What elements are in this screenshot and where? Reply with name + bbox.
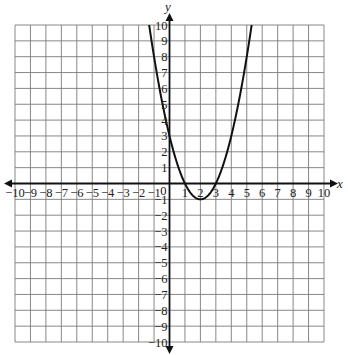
y-tick-label: −4: [154, 240, 168, 254]
x-tick-label: −10: [5, 186, 25, 200]
y-tick-label: −8: [154, 304, 167, 318]
y-tick-label: 2: [161, 145, 167, 159]
y-tick-label: −2: [154, 209, 167, 223]
y-tick-label: 8: [161, 50, 167, 64]
x-tick-label: −7: [55, 186, 68, 200]
x-tick-label: 4: [228, 186, 235, 200]
x-tick-label: −3: [116, 186, 129, 200]
y-tick-label: 4: [161, 114, 168, 128]
y-tick-label: −9: [154, 320, 167, 334]
x-tick-label: 1: [182, 186, 188, 200]
x-tick-label: 3: [213, 186, 219, 200]
x-tick-label: 5: [244, 186, 250, 200]
x-tick-label: −5: [86, 186, 99, 200]
x-tick-label: −8: [39, 186, 52, 200]
y-tick-label: −3: [154, 225, 167, 239]
x-tick-label: 8: [290, 186, 296, 200]
y-tick-label: 10: [155, 19, 168, 33]
y-tick-label: 6: [161, 82, 167, 96]
y-tick-label: −7: [154, 288, 167, 302]
y-axis-label: y: [163, 0, 171, 14]
x-tick-label: 10: [318, 186, 331, 200]
y-tick-label: −6: [154, 272, 167, 286]
x-tick-label: −6: [70, 186, 83, 200]
x-tick-label: −9: [24, 186, 37, 200]
x-tick-label: 6: [259, 186, 265, 200]
y-tick-label: 7: [161, 66, 167, 80]
x-tick-label: −4: [101, 186, 115, 200]
y-tick-label: 1: [161, 161, 167, 175]
origin-label: 0: [160, 184, 166, 198]
x-tick-label: 7: [275, 186, 281, 200]
x-axis-label: x: [336, 176, 343, 191]
axes: [4, 13, 338, 354]
y-tick-label: −5: [154, 256, 167, 270]
coordinate-plane: −10−9−8−7−6−5−4−3−2−112345678910−10−9−8−…: [0, 0, 348, 355]
y-tick-label: −10: [148, 336, 168, 350]
x-tick-label: 9: [305, 186, 311, 200]
x-tick-label: 2: [197, 186, 203, 200]
y-tick-label: 3: [161, 129, 167, 143]
x-tick-label: −2: [132, 186, 145, 200]
y-tick-label: 9: [161, 34, 167, 48]
y-tick-label: 5: [161, 98, 167, 112]
